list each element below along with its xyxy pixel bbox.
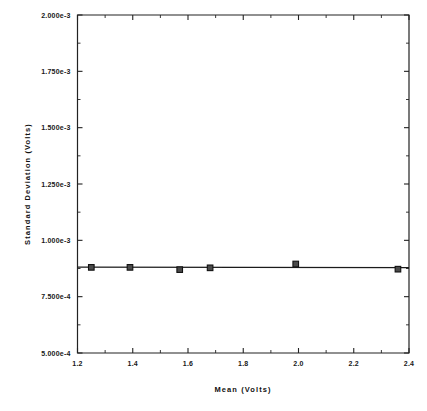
y-tick-label: 1.000e-3 [41,237,70,244]
x-tick-label: 1.2 [72,360,82,367]
y-tick-label: 7.500e-4 [41,293,70,300]
y-tick-label: 2.000e-3 [41,12,70,19]
data-point-marker [89,265,95,271]
data-point-marker [127,265,133,271]
y-tick-label: 1.500e-3 [41,124,70,131]
x-tick-label: 2.4 [404,360,414,367]
y-axis-title: Standard Deviation (Volts) [23,123,32,245]
data-point-marker [207,265,213,271]
data-point-marker [395,266,401,272]
y-tick-label: 5.000e-4 [41,350,70,357]
x-tick-label: 2.0 [293,360,303,367]
scatter-plot: 1.21.41.61.82.02.22.4 5.000e-47.500e-41.… [0,0,427,411]
x-tick-label: 1.8 [238,360,248,367]
chart-container: 1.21.41.61.82.02.22.4 5.000e-47.500e-41.… [0,0,427,411]
x-tick-label: 1.6 [183,360,193,367]
y-tick-label: 1.250e-3 [41,181,70,188]
x-tick-label: 2.2 [349,360,359,367]
data-point-marker [293,261,299,267]
x-tick-label: 1.4 [128,360,138,367]
y-tick-label: 1.750e-3 [41,68,70,75]
x-axis-title: Mean (Volts) [214,385,271,394]
data-point-marker [177,267,183,273]
